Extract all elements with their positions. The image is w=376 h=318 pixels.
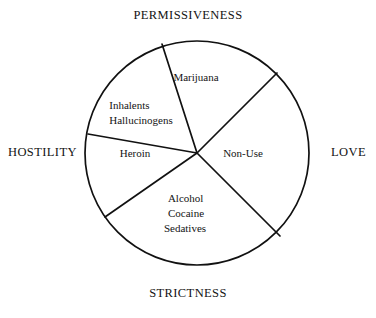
segment-label-line: Cocaine (164, 206, 208, 221)
segment-label-line: Inhalents (109, 98, 173, 113)
axis-label-strictness: STRICTNESS (0, 286, 376, 301)
segment-label-line: Heroin (120, 146, 151, 161)
divider-upper-right (197, 73, 277, 153)
segment-label-inhalants-hallucinogens: Inhalents Hallucinogens (109, 98, 173, 128)
segment-label-heroin: Heroin (120, 146, 151, 161)
axis-label-permissiveness: PERMISSIVENESS (0, 8, 376, 23)
axis-label-love: LOVE (331, 145, 366, 160)
axis-label-hostility: HOSTILITY (8, 145, 77, 160)
segment-label-line: Alcohol (164, 191, 208, 206)
segment-label-marijuana: Marijuana (173, 70, 218, 85)
divider-lower-right (197, 153, 280, 236)
segment-label-alcohol-cocaine-sedatives: Alcohol Cocaine Sedatives (164, 191, 208, 236)
segment-label-line: Non-Use (223, 146, 263, 161)
segment-label-non-use: Non-Use (223, 146, 263, 161)
segment-label-line: Marijuana (173, 70, 218, 85)
segment-label-line: Hallucinogens (109, 113, 173, 128)
segment-label-line: Sedatives (164, 221, 208, 236)
